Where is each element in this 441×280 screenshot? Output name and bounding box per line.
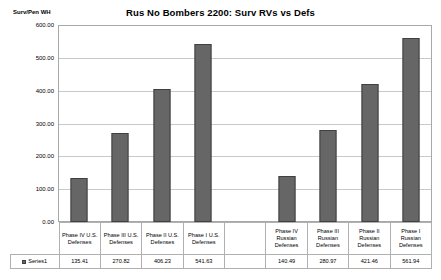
category-label-line: Phase IV U.S. [60,232,100,239]
value-cell: 406.23 [142,255,183,269]
category-label-line: Defenses [349,242,389,249]
category-label-line: Russian [391,235,432,242]
category-label-line: Defenses [101,239,141,246]
bar[interactable] [403,38,420,223]
category-label-line: Phase I U.S. [184,232,224,239]
bar-slot [141,25,183,222]
bar[interactable] [153,89,170,222]
value-cell: 135.41 [59,255,100,269]
category-cell: Phase I U.S.Defenses [183,223,224,255]
chart-container: Rus No Bombers 2200: Surv RVs vs Defs Su… [0,0,441,280]
bar[interactable] [70,178,87,222]
bar-slot [390,25,432,222]
value-cell: 140.49 [266,255,307,269]
table-row-values: Series1135.41270.82406.23541.63140.49280… [11,255,432,269]
value-cell: 541.63 [183,255,224,269]
category-cell: Phase IIIRussianDefenses [307,223,348,255]
category-label-line: Defenses [391,242,432,249]
chart-data-table: Phase IV U.S.DefensesPhase III U.S.Defen… [10,222,432,269]
y-axis-tick-label: 600.00 [14,22,54,28]
category-label-line: Russian [266,235,306,242]
bar-slot [224,25,266,222]
category-label-line: Russian [308,235,348,242]
category-cell: Phase IVRussianDefenses [266,223,307,255]
y-axis-tick-label: 400.00 [14,88,54,94]
value-cell: 561.94 [390,255,432,269]
category-label-line: Defenses [142,239,182,246]
y-axis-tick-label: 200.00 [14,153,54,159]
category-cell: Phase IRussianDefenses [390,223,432,255]
table-row-categories: Phase IV U.S.DefensesPhase III U.S.Defen… [11,223,432,255]
bar[interactable] [278,176,295,222]
y-axis-tick-label: 100.00 [14,186,54,192]
category-label-line: Defenses [184,239,224,246]
bar-slot [100,25,142,222]
bar[interactable] [195,44,212,222]
bar-slot [183,25,225,222]
table-corner-cell [11,223,60,255]
legend-series-cell: Series1 [11,255,60,269]
category-label-line: Phase II [349,228,389,235]
category-cell: Phase IIRussianDefenses [349,223,390,255]
bars-layer [58,25,432,222]
bar-slot [307,25,349,222]
y-axis-tick-label: 500.00 [14,55,54,61]
category-label-line: Phase I [391,228,432,235]
bar-slot [58,25,100,222]
bar[interactable] [112,133,129,222]
category-label-line: Defenses [60,239,100,246]
bar[interactable] [320,130,337,222]
category-cell: Phase IV U.S.Defenses [59,223,100,255]
category-label-line: Defenses [266,242,306,249]
y-axis-tick-label: 300.00 [14,121,54,127]
category-label-line: Phase III U.S. [101,232,141,239]
category-label-line: Phase IV [266,228,306,235]
category-cell-empty [225,223,266,255]
value-cell: 270.82 [100,255,141,269]
y-axis-label: Surv/Pen WH [13,9,51,15]
y-axis-tick-labels: 600.00500.00400.00300.00200.00100.000.00 [10,25,54,222]
category-label-line: Phase III [308,228,348,235]
category-label-line: Russian [349,235,389,242]
category-cell: Phase III U.S.Defenses [100,223,141,255]
category-cell: Phase II U.S.Defenses [142,223,183,255]
bar-slot [266,25,308,222]
category-label-line: Phase II U.S. [142,232,182,239]
chart-title: Rus No Bombers 2200: Surv RVs vs Defs [0,7,441,18]
value-cell: 280.97 [307,255,348,269]
bar-slot [349,25,391,222]
category-label-line: Defenses [308,242,348,249]
legend-series-name: Series1 [28,258,47,264]
value-cell: 421.46 [349,255,390,269]
legend-marker-icon [22,260,26,264]
value-cell-empty [225,255,266,269]
bar[interactable] [361,84,378,222]
